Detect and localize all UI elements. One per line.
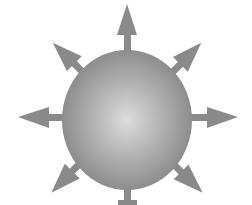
arrow-up-icon <box>117 4 137 55</box>
sphere-arrows-diagram <box>0 0 252 205</box>
sphere <box>62 50 192 190</box>
arrow-right-icon <box>188 107 238 128</box>
arrow-left-icon <box>18 107 67 128</box>
